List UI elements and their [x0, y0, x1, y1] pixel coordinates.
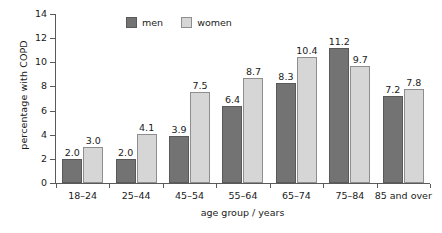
y-tick-label: 4 — [27, 130, 47, 140]
y-tick-label: 0 — [27, 178, 47, 188]
bar-group: 2.04.1 — [109, 14, 162, 183]
legend-item-women: women — [181, 17, 232, 28]
y-tick-mark — [50, 111, 55, 112]
x-axis-line — [55, 183, 430, 184]
x-tick-mark — [323, 184, 324, 188]
y-tick-mark — [50, 14, 55, 15]
y-tick-label: 12 — [27, 33, 47, 43]
x-tick-mark — [163, 184, 164, 188]
bar-group: 3.97.5 — [163, 14, 216, 183]
bar-women — [243, 78, 263, 183]
bar-value-label: 7.5 — [185, 81, 215, 91]
bar-group: 11.29.7 — [323, 14, 376, 183]
y-tick-label: 10 — [27, 57, 47, 67]
bar-men — [276, 83, 296, 183]
x-tick-mark — [56, 184, 57, 188]
y-tick-label: 14 — [27, 9, 47, 19]
bar-value-label: 11.2 — [324, 37, 354, 47]
y-tick-label: 6 — [27, 106, 47, 116]
bar-value-label: 4.1 — [132, 123, 162, 133]
x-category-label: 85 and over — [369, 190, 438, 201]
legend-label-women: women — [197, 17, 232, 28]
x-tick-mark — [109, 184, 110, 188]
chart-legend: men women — [126, 17, 232, 28]
y-tick-mark — [50, 183, 55, 184]
bar-men — [383, 96, 403, 183]
bar-value-label: 10.4 — [292, 46, 322, 56]
y-tick-mark — [50, 38, 55, 39]
bar-value-label: 8.7 — [238, 67, 268, 77]
x-axis-title: age group / years — [55, 207, 430, 218]
legend-label-men: men — [142, 17, 163, 28]
y-tick-mark — [50, 62, 55, 63]
legend-item-men: men — [126, 17, 163, 28]
y-tick-mark — [50, 135, 55, 136]
bar-group: 2.03.0 — [56, 14, 109, 183]
legend-swatch-women-icon — [181, 17, 192, 28]
bar-men — [222, 106, 242, 183]
bar-women — [404, 89, 424, 183]
bar-men — [62, 159, 82, 183]
legend-swatch-men-icon — [126, 17, 137, 28]
bar-women — [350, 66, 370, 183]
x-tick-mark — [216, 184, 217, 188]
bar-group: 7.27.8 — [377, 14, 430, 183]
bar-women — [190, 92, 210, 183]
y-tick-mark — [50, 159, 55, 160]
y-tick-label: 2 — [27, 154, 47, 164]
bar-men — [169, 136, 189, 183]
bar-value-label: 7.8 — [399, 78, 429, 88]
x-tick-mark — [270, 184, 271, 188]
bar-value-label: 9.7 — [345, 55, 375, 65]
copd-bar-chart: percentage with COPD 02468101214 2.03.02… — [0, 0, 442, 233]
bar-men — [329, 48, 349, 183]
bar-women — [297, 57, 317, 183]
x-tick-mark — [377, 184, 378, 188]
bar-women — [83, 147, 103, 183]
x-tick-mark — [430, 184, 431, 188]
bar-group: 8.310.4 — [270, 14, 323, 183]
bar-men — [116, 159, 136, 183]
y-tick-label: 8 — [27, 81, 47, 91]
bar-group: 6.48.7 — [216, 14, 269, 183]
bar-women — [137, 134, 157, 183]
y-tick-mark — [50, 86, 55, 87]
bar-value-label: 3.0 — [78, 136, 108, 146]
plot-area: 2.03.02.04.13.97.56.48.78.310.411.29.77.… — [56, 14, 430, 183]
